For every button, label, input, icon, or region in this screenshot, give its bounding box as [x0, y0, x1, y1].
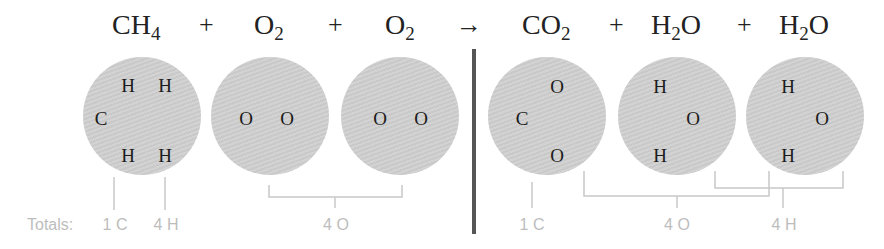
total-oxygen-product: 4 O [664, 215, 690, 235]
total-oxygen-reactant: 4 O [323, 215, 349, 235]
bracket-oxygen-product [584, 171, 769, 196]
total-carbon-product: 1 C [520, 215, 545, 235]
totals-label: Totals: [27, 215, 73, 235]
reaction-diagram: CH4 + O2 + O2 → CO2 + H2O + H2O HHCHHOOO… [0, 0, 884, 249]
bracket-oxygen [269, 185, 402, 197]
total-hydrogen-reactant: 4 H [154, 215, 179, 235]
total-carbon-reactant: 1 C [103, 215, 128, 235]
bracket-hydrogen-product [715, 171, 843, 188]
tally-brackets [0, 0, 884, 249]
total-hydrogen-product: 4 H [772, 215, 797, 235]
